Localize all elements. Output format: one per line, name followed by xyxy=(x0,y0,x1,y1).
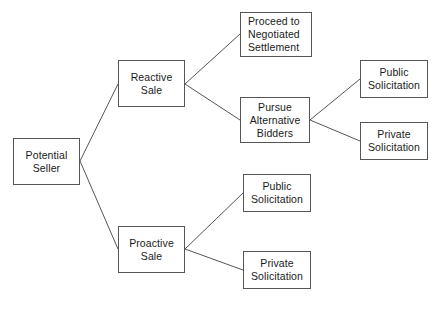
node-label-line: Solicitation xyxy=(368,141,420,154)
node-pursue-alternative-bidders[interactable]: PursueAlternativeBidders xyxy=(240,97,310,143)
edge-pursue-to-public-solicitation xyxy=(310,79,360,120)
node-label-line: Pursue xyxy=(258,101,292,114)
node-public-solicitation-proactive[interactable]: PublicSolicitation xyxy=(243,174,311,212)
edge-proactive-sale-to-private-solicitation xyxy=(185,249,243,270)
diagram-canvas: PotentialSellerReactiveSaleProactiveSale… xyxy=(0,0,442,312)
node-private-solicitation-reactive[interactable]: PrivateSolicitation xyxy=(360,122,428,160)
node-label-line: Sale xyxy=(141,84,162,97)
node-proactive-sale[interactable]: ProactiveSale xyxy=(118,226,185,273)
edge-reactive-sale-to-proceed xyxy=(185,34,240,84)
node-label-line: Reactive xyxy=(131,71,173,84)
edge-pursue-to-private-solicitation xyxy=(310,120,360,141)
edge-potential-seller-to-proactive-sale xyxy=(80,161,118,249)
node-label-line: Private xyxy=(260,257,293,270)
edge-proactive-sale-to-public-solicitation xyxy=(185,193,243,249)
node-label-line: Seller xyxy=(33,162,60,175)
node-label-line: Public xyxy=(379,66,408,79)
node-reactive-sale[interactable]: ReactiveSale xyxy=(118,60,185,107)
node-public-solicitation-reactive[interactable]: PublicSolicitation xyxy=(360,60,428,98)
node-potential-seller[interactable]: PotentialSeller xyxy=(13,138,80,185)
node-label-line: Alternative xyxy=(250,114,301,127)
node-label-line: Negotiated xyxy=(248,28,300,41)
node-label-line: Solicitation xyxy=(251,193,303,206)
node-label-line: Sale xyxy=(141,250,162,263)
edge-potential-seller-to-reactive-sale xyxy=(80,84,118,161)
node-proceed-to-negotiated-settlement[interactable]: Proceed toNegotiatedSettlement xyxy=(240,12,312,57)
node-label-line: Proactive xyxy=(129,237,174,250)
node-label-line: Private xyxy=(377,128,410,141)
node-label-line: Potential xyxy=(26,149,68,162)
edge-reactive-sale-to-pursue xyxy=(185,84,240,120)
node-label-line: Proceed to xyxy=(248,15,300,28)
node-label-line: Solicitation xyxy=(368,79,420,92)
node-label-line: Bidders xyxy=(257,127,293,140)
node-label-line: Solicitation xyxy=(251,270,303,283)
node-label-line: Settlement xyxy=(248,41,299,54)
node-label-line: Public xyxy=(262,180,291,193)
node-private-solicitation-proactive[interactable]: PrivateSolicitation xyxy=(243,251,311,289)
